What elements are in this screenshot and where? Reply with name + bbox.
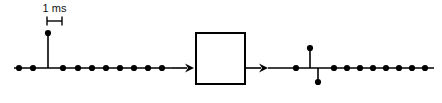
input-arrow	[172, 64, 194, 73]
sample-dot	[307, 45, 313, 51]
sample-dot	[16, 65, 22, 71]
sample-spacing-marker: 1 ms	[43, 2, 67, 26]
input-impulse-signal	[14, 30, 172, 71]
sample-dot	[357, 65, 363, 71]
output-sample-dots	[293, 45, 428, 85]
sample-dot	[396, 65, 402, 71]
sample-dot	[45, 30, 51, 36]
sample-dot	[159, 65, 165, 71]
sample-dot	[370, 65, 376, 71]
sample-dot	[103, 65, 109, 71]
sample-dot	[383, 65, 389, 71]
sample-dot	[293, 65, 299, 71]
sample-dot	[331, 65, 337, 71]
output-arrow	[245, 64, 268, 73]
sample-dot	[131, 65, 137, 71]
output-doublet-signal	[268, 45, 434, 85]
sample-dot	[315, 79, 321, 85]
figure-canvas: 1 ms	[0, 0, 442, 103]
sample-dot	[89, 65, 95, 71]
sample-dot	[422, 65, 428, 71]
scale-label: 1 ms	[43, 2, 67, 14]
sample-dot	[145, 65, 151, 71]
system-block	[196, 33, 245, 84]
sample-dot	[30, 65, 36, 71]
input-sample-dots	[16, 30, 165, 71]
sample-dot	[344, 65, 350, 71]
impulse-response-figure: 1 ms	[0, 0, 442, 103]
sample-dot	[409, 65, 415, 71]
sample-dot	[117, 65, 123, 71]
sample-dot	[75, 65, 81, 71]
sample-dot	[60, 65, 66, 71]
